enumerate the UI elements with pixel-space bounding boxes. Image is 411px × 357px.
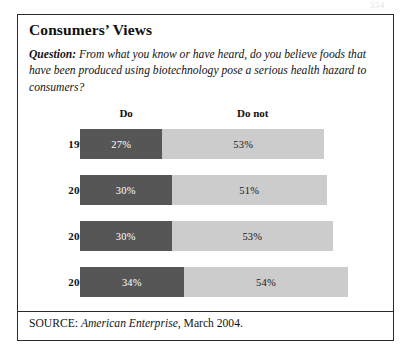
- source-divider: [18, 311, 393, 312]
- chart-bar-row: 200130%53%: [18, 221, 393, 251]
- bar-track: 30%51%: [80, 175, 327, 205]
- source-publication: American Enterprise: [81, 317, 178, 330]
- source-prefix: SOURCE:: [29, 317, 81, 330]
- question-body: From what you know or have heard, do you…: [29, 48, 366, 94]
- chart-bar-row: 200234%54%: [18, 267, 393, 297]
- bar-segment-do-not: 54%: [184, 267, 349, 297]
- figure-panel: Consumers’ Views Question: From what you…: [17, 14, 394, 341]
- bar-track: 30%53%: [80, 221, 333, 251]
- bar-segment-do: 34%: [80, 267, 184, 297]
- column-header-do-not: Do not: [237, 107, 268, 119]
- chart-bar-row: 200030%51%: [18, 175, 393, 205]
- source-suffix: , March 2004.: [178, 317, 243, 330]
- bar-segment-do: 27%: [80, 129, 162, 159]
- bar-track: 34%54%: [80, 267, 348, 297]
- bar-segment-do-not: 53%: [162, 129, 324, 159]
- chart-bar-row: 199927%53%: [18, 129, 393, 159]
- page-title: Consumers’ Views: [29, 21, 152, 39]
- page-number-artifact: 334: [370, 1, 385, 10]
- bar-segment-do: 30%: [80, 175, 172, 205]
- bar-segment-do-not: 53%: [172, 221, 334, 251]
- question-label: Question:: [29, 48, 76, 61]
- column-header-do: Do: [119, 107, 132, 119]
- source-note: SOURCE: American Enterprise, March 2004.: [29, 317, 243, 330]
- question-text: Question: From what you know or have hea…: [29, 47, 384, 96]
- stacked-bar-chart: DoDo not 199927%53%200030%51%200130%53%2…: [18, 107, 393, 307]
- bar-track: 27%53%: [80, 129, 324, 159]
- bar-segment-do-not: 51%: [172, 175, 328, 205]
- bar-segment-do: 30%: [80, 221, 172, 251]
